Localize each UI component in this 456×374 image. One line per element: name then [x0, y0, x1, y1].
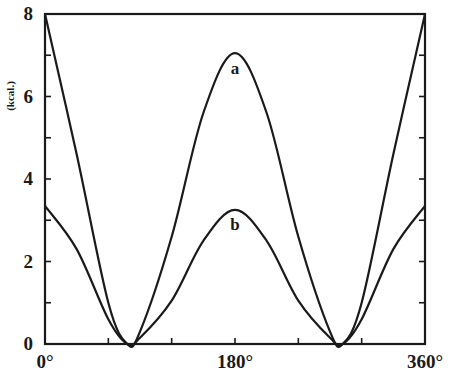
y-tick-label: 8 — [24, 3, 34, 24]
x-tick-label: 180° — [217, 351, 253, 372]
y-tick-label: 0 — [24, 333, 34, 354]
y-tick-label: 6 — [24, 86, 34, 107]
curve-label-a: a — [231, 59, 240, 78]
energy-profile-chart: 024680°180°360° ab (kcal.) — [0, 0, 456, 374]
curves: ab — [45, 14, 425, 347]
x-tick-label: 0° — [36, 351, 53, 372]
y-tick-label: 4 — [24, 168, 34, 189]
x-tick-label: 360° — [407, 351, 443, 372]
y-axis-label: (kcal.) — [4, 81, 17, 111]
curve-label-b: b — [230, 215, 239, 234]
y-tick-label: 2 — [24, 251, 34, 272]
